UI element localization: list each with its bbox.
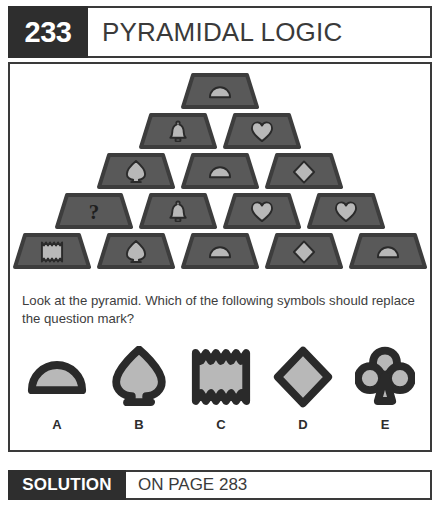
pyramid-tile-dome[interactable] [349, 232, 427, 270]
pyramid-tile-heart[interactable] [307, 192, 385, 230]
pyramid-tile-dome[interactable] [181, 72, 259, 110]
pyramid-row-5 [10, 232, 430, 270]
pyramid-tile-question[interactable]: ? [55, 192, 133, 230]
spade-icon [123, 160, 149, 184]
diamond-icon [273, 346, 333, 408]
pyramid-diagram: ? [10, 72, 430, 284]
club-icon [355, 346, 415, 408]
spade-icon [123, 240, 149, 264]
answer-option-label: E [381, 417, 390, 432]
dome-icon [207, 80, 233, 104]
pyramid-tile-diamond[interactable] [265, 232, 343, 270]
pyramid-tile-heart[interactable] [223, 192, 301, 230]
diamond-icon [291, 240, 317, 264]
pyramid-tile-bell[interactable] [139, 112, 217, 150]
pyramid-row-1 [10, 72, 430, 110]
puzzle-title-box: PYRAMIDAL LOGIC [88, 6, 432, 58]
puzzle-header: 233 PYRAMIDAL LOGIC [8, 6, 432, 58]
dome-icon [27, 346, 87, 408]
pyramid-tile-dome[interactable] [181, 152, 259, 190]
question-text: Look at the pyramid. Which of the follow… [22, 292, 420, 328]
pyramid-tile-zigzag[interactable] [13, 232, 91, 270]
answer-option-label: A [52, 417, 61, 432]
heart-icon [249, 200, 275, 224]
pyramid-tile-diamond[interactable] [265, 152, 343, 190]
spade-icon [109, 346, 169, 408]
answer-option-B[interactable]: B [103, 346, 175, 432]
pyramid-row-2 [10, 112, 430, 150]
puzzle-number: 233 [8, 6, 88, 58]
answer-option-label: D [298, 417, 307, 432]
dome-icon [207, 240, 233, 264]
solution-label: SOLUTION [8, 470, 126, 500]
pyramid-tile-spade[interactable] [97, 152, 175, 190]
answer-option-E[interactable]: E [349, 346, 421, 432]
page-title: PYRAMIDAL LOGIC [102, 17, 342, 48]
question-mark-icon: ? [89, 200, 100, 225]
answer-option-label: C [216, 417, 225, 432]
dome-icon [375, 240, 401, 264]
diamond-icon [291, 160, 317, 184]
solution-page-reference: ON PAGE 283 [126, 470, 432, 500]
puzzle-body-panel: ? Look at the pyramid. Which of the foll… [8, 62, 432, 452]
answer-option-D[interactable]: D [267, 346, 339, 432]
pyramid-row-4: ? [10, 192, 430, 230]
answer-option-A[interactable]: A [21, 346, 93, 432]
pyramid-tile-bell[interactable] [139, 192, 217, 230]
heart-icon [333, 200, 359, 224]
pyramid-tile-heart[interactable] [223, 112, 301, 150]
puzzle-page: 233 PYRAMIDAL LOGIC ? Look at the pyrami… [0, 0, 439, 510]
dome-icon [207, 160, 233, 184]
answer-option-label: B [134, 417, 143, 432]
zigzag-icon [191, 346, 251, 408]
heart-icon [249, 120, 275, 144]
pyramid-tile-spade[interactable] [97, 232, 175, 270]
solution-bar: SOLUTION ON PAGE 283 [8, 470, 432, 500]
bell-icon [165, 120, 191, 144]
pyramid-tile-dome[interactable] [181, 232, 259, 270]
zigzag-icon [39, 240, 65, 264]
answer-option-C[interactable]: C [185, 346, 257, 432]
answer-options: ABCDE [16, 346, 426, 432]
bell-icon [165, 200, 191, 224]
pyramid-row-3 [10, 152, 430, 190]
